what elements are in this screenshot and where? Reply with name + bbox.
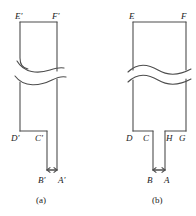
- vertex-label-D: D: [126, 134, 133, 143]
- vertex-label-A: A: [164, 176, 170, 185]
- break-edge-lower-a: [15, 76, 66, 85]
- panel-b-geometry: [128, 22, 191, 172]
- vertex-label-D-prime: D': [11, 134, 19, 143]
- vertex-label-G: G: [179, 134, 186, 143]
- vertex-label-F-prime: F': [52, 12, 59, 21]
- vertex-label-B: B: [147, 176, 153, 185]
- vertex-label-B-prime: B': [38, 176, 45, 185]
- vertex-label-C-prime: C': [35, 134, 43, 143]
- figure-root: E' F' D' C' B' A' E F D C H G B A (a) (b…: [0, 0, 196, 216]
- edge-Ep-break-left: [20, 22, 28, 69]
- break-edge-upper-b: [128, 65, 191, 74]
- break-edge-lower-b: [128, 75, 191, 84]
- vertex-label-H: H: [166, 134, 173, 143]
- vertex-label-E: E: [129, 12, 135, 21]
- vertex-label-F: F: [181, 12, 187, 21]
- vertex-label-C: C: [143, 134, 149, 143]
- panel-caption-a: (a): [36, 196, 46, 205]
- vertex-label-A-prime: A': [58, 176, 65, 185]
- panel-caption-b: (b): [152, 196, 163, 205]
- panel-a-geometry: [15, 22, 66, 172]
- vertex-label-E-prime: E': [15, 12, 22, 21]
